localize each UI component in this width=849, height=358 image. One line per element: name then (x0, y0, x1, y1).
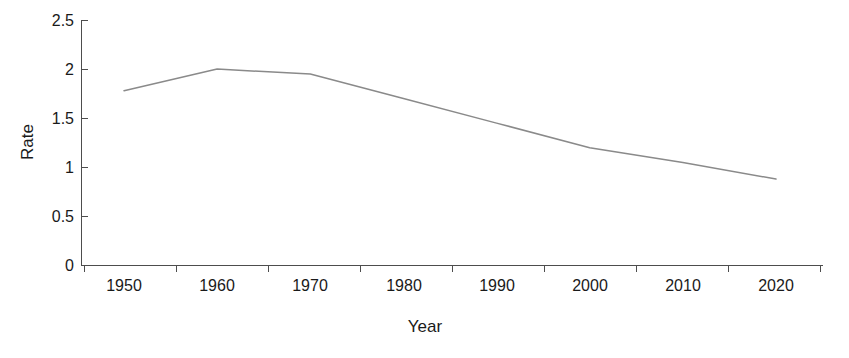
y-tick-label: 1.5 (52, 110, 74, 127)
x-tick-label: 1970 (292, 277, 328, 294)
y-tick-label: 2.5 (52, 12, 74, 29)
y-tick-label: 1 (65, 159, 74, 176)
line-chart-figure: 0 0.5 1 1.5 2 2.5 1950 1960 1970 1980 19… (0, 0, 849, 358)
x-tick-label: 2020 (758, 277, 794, 294)
x-tick-label: 2010 (665, 277, 701, 294)
x-tick-label: 1950 (106, 277, 142, 294)
y-tick-label: 0.5 (52, 208, 74, 225)
chart-canvas: 0 0.5 1 1.5 2 2.5 1950 1960 1970 1980 19… (0, 0, 849, 358)
y-tick-label: 2 (65, 61, 74, 78)
x-axis-title: Year (408, 317, 443, 336)
y-tick-label: 0 (65, 257, 74, 274)
x-tick-label: 1990 (479, 277, 515, 294)
x-tick-label: 1960 (199, 277, 235, 294)
x-tick-label: 1980 (386, 277, 422, 294)
x-tick-label: 2000 (572, 277, 608, 294)
y-axis-title: Rate (18, 124, 37, 160)
chart-background (0, 0, 849, 358)
